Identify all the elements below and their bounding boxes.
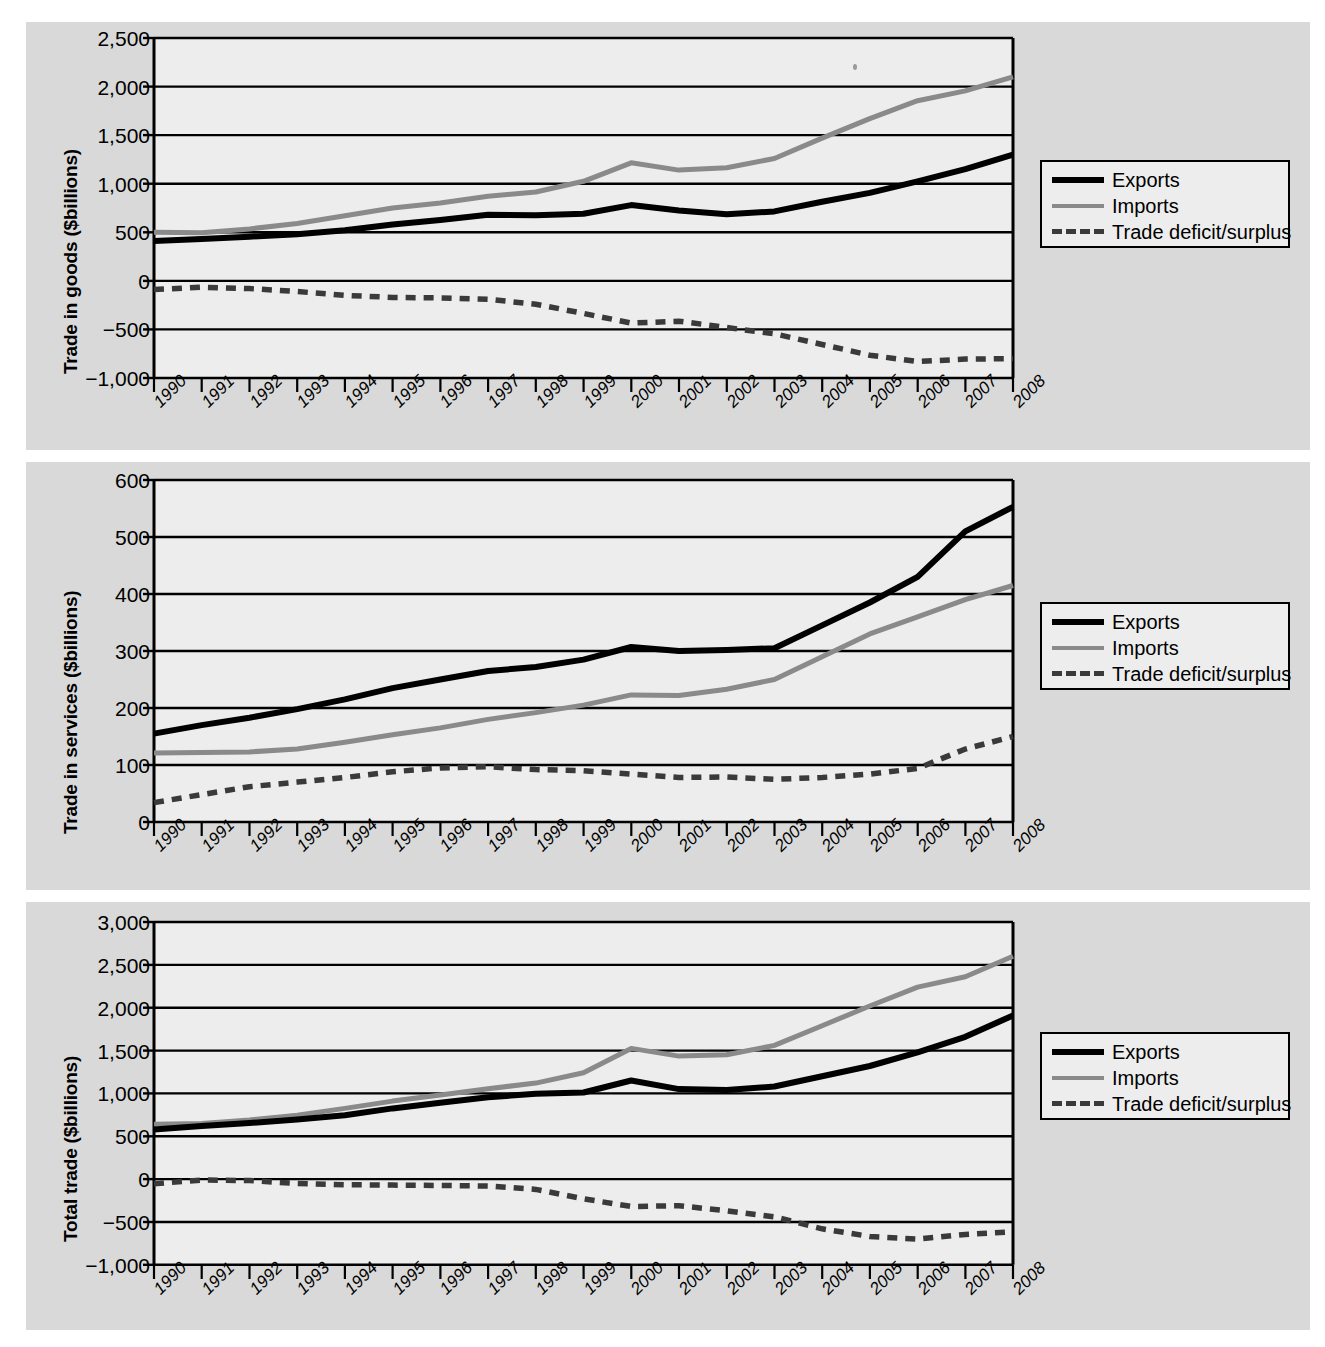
- legend-row-exports: Exports: [1042, 167, 1288, 193]
- legend-swatch-exports-icon: [1052, 615, 1104, 629]
- chart-panel-total: Total trade ($billions) 3,000 2,500 2,00…: [26, 902, 1310, 1330]
- legend-label-deficit: Trade deficit/surplus: [1112, 663, 1291, 686]
- series-line-imports: [154, 77, 1013, 233]
- legend-total: Exports Imports Trade deficit/surplus: [1040, 1032, 1290, 1120]
- series-line-deficit: [154, 737, 1013, 803]
- legend-label-deficit: Trade deficit/surplus: [1112, 221, 1291, 244]
- chart-panel-services: Trade in services ($billions) 600 500 40…: [26, 462, 1310, 890]
- series-line-exports: [154, 155, 1013, 241]
- legend-row-imports: Imports: [1042, 635, 1288, 661]
- gridlines-goods: [154, 38, 1013, 378]
- legend-row-exports: Exports: [1042, 1039, 1288, 1065]
- legend-label-exports: Exports: [1112, 611, 1180, 634]
- legend-label-exports: Exports: [1112, 1041, 1180, 1064]
- series-line-deficit: [154, 287, 1013, 361]
- legend-label-imports: Imports: [1112, 195, 1179, 218]
- legend-row-deficit: Trade deficit/surplus: [1042, 219, 1288, 245]
- legend-label-imports: Imports: [1112, 637, 1179, 660]
- legend-swatch-deficit-icon: [1052, 225, 1104, 239]
- legend-row-deficit: Trade deficit/surplus: [1042, 661, 1288, 687]
- trade-charts-figure: Trade in goods ($billions) 2,500 2,000 1…: [0, 0, 1325, 1347]
- legend-swatch-exports-icon: [1052, 1045, 1104, 1059]
- legend-row-deficit: Trade deficit/surplus: [1042, 1091, 1288, 1117]
- legend-swatch-imports-icon: [1052, 199, 1104, 213]
- legend-services: Exports Imports Trade deficit/surplus: [1040, 602, 1290, 690]
- series-line-deficit: [154, 1180, 1013, 1239]
- legend-swatch-imports-icon: [1052, 641, 1104, 655]
- legend-swatch-imports-icon: [1052, 1071, 1104, 1085]
- series-line-exports: [154, 507, 1013, 734]
- legend-label-deficit: Trade deficit/surplus: [1112, 1093, 1291, 1116]
- legend-goods: Exports Imports Trade deficit/surplus: [1040, 160, 1290, 248]
- legend-swatch-deficit-icon: [1052, 1097, 1104, 1111]
- legend-swatch-exports-icon: [1052, 173, 1104, 187]
- series-line-imports: [154, 956, 1013, 1124]
- legend-row-imports: Imports: [1042, 193, 1288, 219]
- legend-row-exports: Exports: [1042, 609, 1288, 635]
- chart-panel-goods: Trade in goods ($billions) 2,500 2,000 1…: [26, 22, 1310, 450]
- legend-label-imports: Imports: [1112, 1067, 1179, 1090]
- y-ticks-services: [143, 480, 154, 822]
- y-ticks-total: [143, 922, 154, 1265]
- series-line-imports: [154, 586, 1013, 754]
- y-ticks-goods: [143, 38, 154, 378]
- axis-spines-goods: [154, 38, 1013, 378]
- legend-row-imports: Imports: [1042, 1065, 1288, 1091]
- legend-label-exports: Exports: [1112, 169, 1180, 192]
- legend-swatch-deficit-icon: [1052, 667, 1104, 681]
- gridlines-services: [154, 480, 1013, 822]
